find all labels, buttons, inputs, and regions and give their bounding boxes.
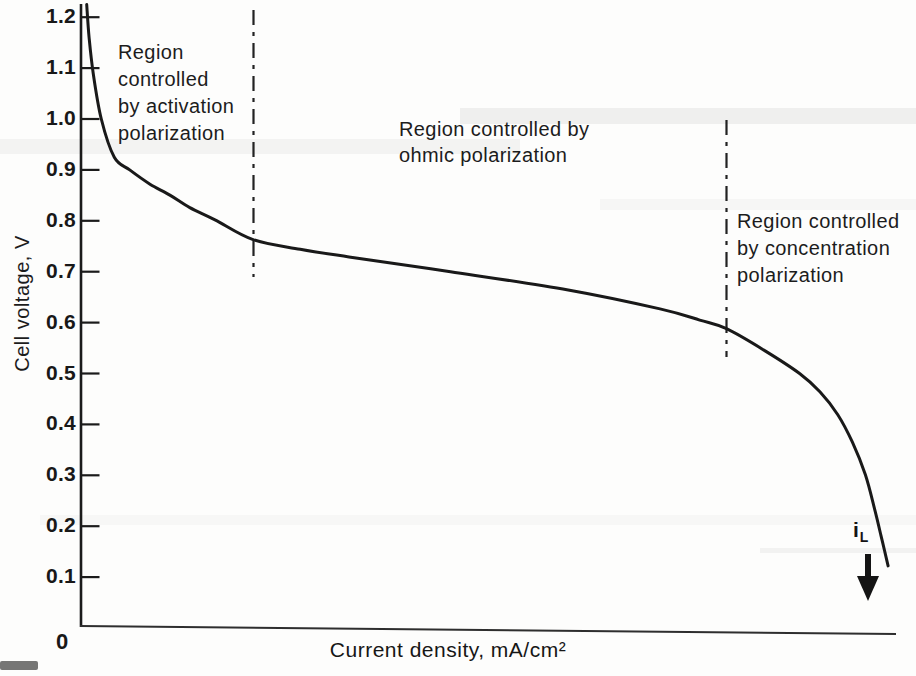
limiting-current-label: iL xyxy=(853,518,868,545)
region-label-activation: Region controlled by activation polariza… xyxy=(118,39,234,147)
y-tick-label: 1.0 xyxy=(30,106,76,130)
region-label-ohmic: Region controlled by ohmic polarization xyxy=(399,116,589,168)
x-axis-line xyxy=(80,626,896,634)
y-tick-label: 0.4 xyxy=(30,411,76,435)
region-label-concentration: Region controlled by concentration polar… xyxy=(737,208,899,289)
y-tick-label: 0.1 xyxy=(30,564,76,588)
y-tick-label: 0.3 xyxy=(30,462,76,486)
y-tick-label: 0.8 xyxy=(30,208,76,232)
polarization-curve-figure: 0 Cell voltage, V Current density, mA/cm… xyxy=(0,0,916,676)
y-tick-label: 0.7 xyxy=(30,259,76,283)
y-tick-label: 0.6 xyxy=(30,310,76,334)
y-tick-label: 0.9 xyxy=(30,157,76,181)
limiting-current-arrow-head xyxy=(857,576,879,601)
y-axis-title: Cell voltage, V xyxy=(11,229,34,379)
y-tick-label: 0.5 xyxy=(30,361,76,385)
y-tick-label: 0.2 xyxy=(30,513,76,537)
limiting-current-subscript: L xyxy=(860,529,869,545)
x-axis-title: Current density, mA/cm² xyxy=(298,638,598,662)
limiting-current-symbol: i xyxy=(853,518,859,541)
x-origin-label: 0 xyxy=(50,629,74,655)
y-tick-label: 1.1 xyxy=(30,55,76,79)
y-tick-label: 1.2 xyxy=(30,4,76,28)
